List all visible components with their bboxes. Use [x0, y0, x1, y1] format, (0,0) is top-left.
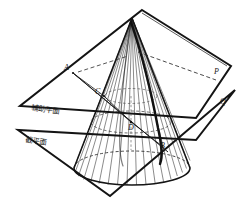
- point-label-a: A: [64, 64, 69, 72]
- point-label-b: B: [160, 142, 165, 150]
- dashed-trace-to-P: [138, 52, 216, 80]
- point-label-c: C: [95, 88, 100, 96]
- point-a-dot: [72, 72, 74, 74]
- point-label-d: D: [128, 124, 134, 132]
- cone-rulings: [74, 18, 190, 185]
- plane-corner-label-q: Q: [220, 98, 226, 106]
- plane-corner-label-p: P: [214, 68, 219, 76]
- point-c-dot: [103, 95, 105, 97]
- auxiliary-plane-inner-edge: [142, 13, 227, 66]
